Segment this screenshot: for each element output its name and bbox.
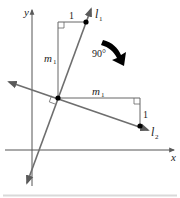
l2-label: l 2 (151, 125, 159, 141)
l1-run-label: 1 (69, 10, 74, 21)
point-on-l1 (83, 19, 88, 24)
y-axis-label: y (23, 6, 29, 18)
l2-rise-label: 1 (143, 109, 148, 120)
perpendicular-lines-diagram: y x l 1 l 2 1 m 1 m 1 1 90° (0, 0, 180, 198)
l2-run-label: m 1 (92, 85, 105, 99)
svg-text:2: 2 (155, 133, 159, 141)
svg-text:m: m (92, 85, 100, 97)
svg-text:1: 1 (101, 91, 105, 99)
svg-text:m: m (44, 52, 52, 64)
right-angle-marker (134, 98, 140, 104)
svg-text:1: 1 (99, 15, 103, 23)
x-axis-label: x (170, 151, 176, 163)
slope-triangle-l2 (58, 98, 140, 126)
line-l2 (9, 82, 148, 130)
l1-label: l 1 (95, 7, 103, 23)
right-angle-marker (58, 22, 64, 28)
l1-rise-label: m 1 (44, 52, 57, 66)
rotation-label: 90° (92, 48, 106, 59)
svg-text:1: 1 (53, 58, 57, 66)
point-on-l2 (137, 123, 142, 128)
intersection-point (55, 95, 60, 100)
